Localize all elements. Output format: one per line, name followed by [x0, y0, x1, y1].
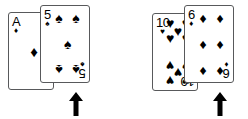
diamond-icon: ♦ [30, 44, 38, 59]
diamond-icon: ♦ [189, 20, 193, 28]
diamond-icon: ♦ [199, 37, 206, 51]
card-6-of-diamonds[interactable]: 6 ♦ 6 ♦ ♦ ♦ ♦ ♦ ♦ ♦ [184, 5, 234, 83]
right-card-pair: 10 ♥ 10 ♥ ♥ ♥ ♥ ♥ ♥ ♥ ♥ ♥ ♥ ♥ [124, 0, 248, 119]
diamond-icon: ♦ [199, 63, 206, 77]
card-index-top-left: A ♦ [12, 15, 20, 35]
left-card-pair: A ♦ ♦ 5 ♠ 5 ♠ ♠ ♠ ♠ ♠ ♠ [0, 0, 124, 119]
card-index-top-left: 5 ♠ [44, 8, 51, 28]
spade-icon: ♠ [45, 20, 49, 28]
spade-icon: ♠ [55, 11, 62, 25]
arrow-pointing-up-right [212, 92, 228, 116]
heart-icon: ♥ [174, 24, 182, 38]
diamond-icon: ♦ [199, 11, 206, 25]
diamond-icon: ♦ [216, 63, 223, 77]
diamond-icon: ♦ [216, 11, 223, 25]
diamond-icon: ♦ [14, 27, 18, 35]
card-5-of-spades[interactable]: 5 ♠ 5 ♠ ♠ ♠ ♠ ♠ ♠ [40, 5, 90, 83]
arrow-pointing-up-left [68, 92, 84, 116]
heart-icon: ♥ [174, 66, 182, 80]
diamond-icon: ♦ [216, 37, 223, 51]
card-index-top-left: 6 ♦ [188, 8, 195, 28]
playing-cards-scene: A ♦ ♦ 5 ♠ 5 ♠ ♠ ♠ ♠ ♠ ♠ [0, 0, 248, 119]
spade-icon: ♠ [55, 63, 62, 77]
spade-icon: ♠ [72, 11, 79, 25]
card-pip-field: ♠ ♠ ♠ ♠ ♠ [52, 10, 84, 78]
spade-icon: ♠ [64, 37, 71, 51]
card-pip-field: ♦ ♦ ♦ ♦ ♦ ♦ [196, 10, 228, 78]
spade-icon: ♠ [72, 63, 79, 77]
